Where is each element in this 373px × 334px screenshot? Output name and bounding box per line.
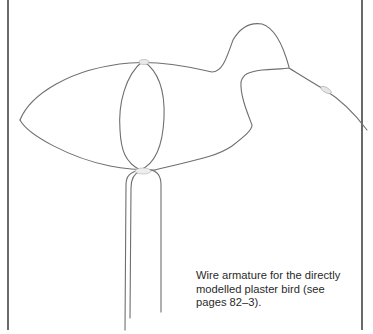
left-leg-wire (125, 170, 140, 330)
left-leg-wire-2 (130, 171, 140, 318)
tape-wrap-junction (135, 168, 151, 174)
right-leg-wire (150, 170, 161, 312)
beak-wire (289, 68, 367, 130)
body-hoop-wire (120, 61, 164, 170)
tape-wrap-beak (320, 85, 333, 95)
figure-caption: Wire armature for the directly modelled … (196, 269, 356, 310)
figure-page: Wire armature for the directly modelled … (0, 0, 373, 334)
belly-wire (20, 120, 155, 170)
breast-wire (155, 68, 289, 170)
tape-wrap-top (139, 60, 149, 65)
